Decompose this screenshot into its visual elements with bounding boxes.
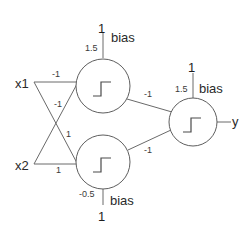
input-edges [34, 82, 77, 164]
bias-weight-h1: 1.5 [85, 43, 98, 53]
edge-x1-h2 [34, 82, 77, 163]
bias-weight-out: 1.5 [175, 84, 188, 94]
bias-input-out: 1 [188, 60, 195, 75]
edge-h1-out [127, 99, 172, 112]
weight-x1-h1: -1 [52, 69, 60, 79]
hidden-neuron-2 [76, 135, 130, 189]
neuron-circle [169, 98, 217, 146]
bias-label-h2: bias [110, 193, 134, 208]
output-label-y: y [232, 114, 239, 129]
weight-x2-h2: 1 [56, 165, 61, 175]
weight-x2-h1: -1 [54, 99, 62, 109]
weight-x1-h2: 1 [66, 129, 71, 139]
weight-h1-out: -1 [144, 89, 152, 99]
hidden-neuron-1 [76, 59, 130, 113]
input-label-x1: x1 [15, 76, 29, 91]
bias-input-h2: 1 [98, 209, 105, 224]
edge-x2-h1 [34, 84, 77, 164]
bias-input-h1: 1 [98, 21, 105, 36]
input-label-x2: x2 [15, 158, 29, 173]
neural-network-diagram: x1 x2 -1 -1 1 1 -1 -1 1 1.5 bias -0.5 bi… [0, 0, 249, 237]
weight-h2-out: -1 [144, 145, 152, 155]
neuron-circle [76, 135, 130, 189]
neuron-circle [76, 59, 130, 113]
bias-label-h1: bias [111, 30, 135, 45]
bias-weight-h2: -0.5 [79, 189, 95, 199]
output-neuron [169, 98, 217, 146]
bias-label-out: bias [199, 81, 223, 96]
hidden-edges [127, 99, 172, 150]
